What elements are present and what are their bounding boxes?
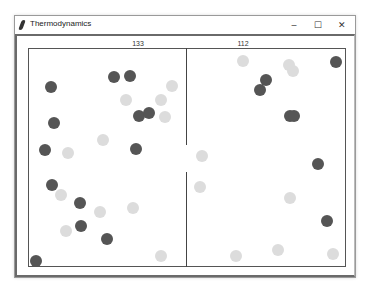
hot-particle — [127, 202, 139, 214]
cold-particle — [46, 179, 58, 191]
divider-wall-lower — [186, 172, 187, 267]
window-title: Thermodynamics — [30, 19, 91, 28]
close-button[interactable]: ✕ — [331, 18, 353, 32]
hot-particle — [166, 80, 178, 92]
hot-particle — [60, 225, 72, 237]
hot-particle — [94, 206, 106, 218]
cold-particle — [124, 70, 136, 82]
cold-particle — [130, 143, 142, 155]
left-chamber-count: 133 — [132, 40, 144, 47]
cold-particle — [288, 110, 300, 122]
hot-particle — [287, 65, 299, 77]
cold-particle — [254, 84, 266, 96]
cold-particle — [48, 117, 60, 129]
hot-particle — [120, 94, 132, 106]
hot-particle — [237, 55, 249, 67]
cold-particle — [101, 233, 113, 245]
cold-particle — [108, 71, 120, 83]
hot-particle — [155, 250, 167, 262]
simulation-canvas[interactable] — [28, 48, 346, 267]
right-chamber-count: 112 — [237, 40, 248, 47]
title-bar[interactable]: Thermodynamics – ☐ ✕ — [15, 16, 355, 34]
cold-particle — [39, 144, 51, 156]
cold-particle — [330, 56, 342, 68]
hot-particle — [272, 244, 284, 256]
hot-particle — [327, 248, 339, 260]
minimize-button[interactable]: – — [283, 18, 305, 32]
hot-particle — [196, 150, 208, 162]
cold-particle — [45, 81, 57, 93]
feather-icon — [18, 20, 26, 30]
cold-particle — [143, 107, 155, 119]
cold-particle — [321, 215, 333, 227]
hot-particle — [155, 94, 167, 106]
maximize-button[interactable]: ☐ — [307, 18, 329, 32]
cold-particle — [75, 220, 87, 232]
hot-particle — [194, 181, 206, 193]
hot-particle — [284, 192, 296, 204]
hot-particle — [97, 134, 109, 146]
hot-particle — [159, 111, 171, 123]
cold-particle — [30, 255, 42, 267]
divider-wall-upper — [186, 48, 187, 145]
hot-particle — [230, 250, 242, 262]
cold-particle — [312, 158, 324, 170]
hot-particle — [62, 147, 74, 159]
hot-particle — [55, 189, 67, 201]
cold-particle — [74, 197, 86, 209]
